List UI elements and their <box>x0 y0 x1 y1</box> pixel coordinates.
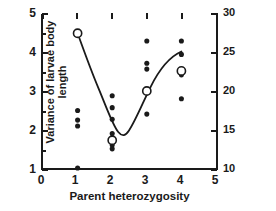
plot-area: Variance of larvae body length Mortality… <box>41 14 218 170</box>
xtick-label-3: 3 <box>135 174 155 186</box>
xtick-label-0: 0 <box>31 174 51 186</box>
data-point-filled <box>110 93 115 98</box>
data-point-filled <box>110 146 115 151</box>
data-point-filled <box>179 38 184 43</box>
data-point-filled <box>110 105 115 110</box>
rtick-label-30: 30 <box>223 7 249 18</box>
data-point-open <box>108 136 116 144</box>
data-point-filled <box>110 117 115 122</box>
data-point-filled <box>75 108 80 113</box>
ytick-label-4: 4 <box>14 46 36 58</box>
xtick-label-1: 1 <box>65 174 85 186</box>
xtick-label-4: 4 <box>170 174 190 186</box>
data-point-filled <box>144 112 149 117</box>
x-axis-title: Parent heterozygosity <box>41 190 218 202</box>
rtick-10 <box>211 169 217 171</box>
data-point-filled <box>75 118 80 123</box>
data-point-filled <box>179 52 184 57</box>
data-point-filled <box>179 96 184 101</box>
data-point-filled <box>110 131 115 136</box>
data-point-open <box>143 87 151 95</box>
fitted-mortality-curve <box>78 33 182 135</box>
rtick-label-25: 25 <box>223 46 249 57</box>
rtick-label-10: 10 <box>223 163 249 174</box>
xtick-label-2: 2 <box>100 174 120 186</box>
data-point-open <box>177 67 185 75</box>
data-point-filled <box>75 165 80 170</box>
xtick-5 <box>216 13 218 19</box>
ytick-1 <box>42 169 48 171</box>
data-point-filled <box>144 61 149 66</box>
ytick-label-2: 2 <box>14 124 36 136</box>
data-point-filled <box>75 123 80 128</box>
data-point-filled <box>144 38 149 43</box>
data-layer <box>43 14 216 168</box>
ytick-label-5: 5 <box>14 7 36 19</box>
xtick-label-5: 5 <box>205 174 225 186</box>
figure: Variance of larvae body length Mortality… <box>0 0 276 211</box>
rtick-label-15: 15 <box>223 124 249 135</box>
data-point-filled <box>144 67 149 72</box>
ytick-label-3: 3 <box>14 85 36 97</box>
y-axis-title: Variance of larvae body length <box>44 7 68 157</box>
data-point-open <box>73 29 81 37</box>
rtick-label-20: 20 <box>223 85 249 96</box>
